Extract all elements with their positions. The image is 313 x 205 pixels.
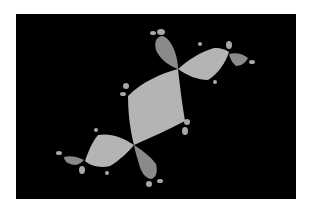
bud — [120, 92, 126, 96]
bud — [94, 128, 98, 132]
bud — [105, 171, 109, 175]
central-lobe — [128, 69, 185, 145]
far-lower-left-lobe — [64, 156, 84, 165]
bud — [249, 60, 255, 64]
bud — [184, 119, 190, 125]
fractal-lobes — [56, 29, 255, 187]
upper-right-lobe — [178, 48, 229, 80]
lower-center-lobe — [134, 145, 157, 179]
bud — [79, 166, 85, 174]
lower-left-lobe — [85, 134, 134, 166]
bud — [157, 179, 163, 183]
bud — [123, 83, 129, 89]
bud — [56, 151, 62, 155]
bud — [226, 41, 232, 49]
julia-set-fractal — [0, 0, 313, 205]
bud — [213, 80, 217, 84]
far-upper-right-lobe — [229, 53, 248, 66]
bud — [157, 29, 165, 35]
bud — [198, 42, 202, 46]
bud — [150, 31, 156, 35]
bud — [182, 127, 188, 135]
bud — [146, 181, 152, 187]
upper-left-lobe — [155, 36, 178, 69]
